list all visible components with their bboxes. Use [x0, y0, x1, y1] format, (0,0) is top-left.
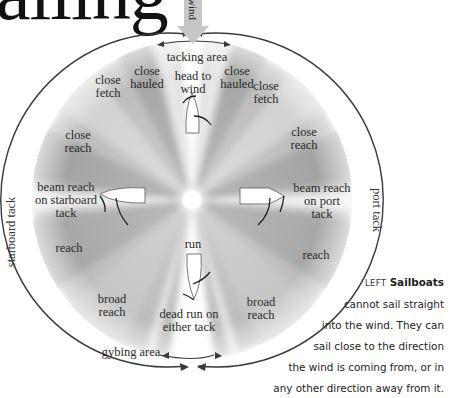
- wind-label: wind: [187, 0, 199, 21]
- point-dead-run: dead run oneither tack: [159, 307, 219, 334]
- point-close-fetch-right: closefetch: [253, 79, 279, 106]
- point-close-reach-right: closereach: [290, 125, 318, 152]
- caption-line-5: the wind is coming from, or in: [224, 357, 444, 378]
- caption-line-6: any other direction away from it.: [224, 378, 444, 398]
- caption-line-2: cannot sail straight: [224, 294, 444, 315]
- starboard-tack-label: starboard tack: [4, 196, 18, 267]
- caption-line-1: LEFT Sailboats: [224, 272, 444, 294]
- arrowhead-icon: [197, 363, 206, 371]
- caption-line-3: into the wind. They can: [224, 315, 444, 336]
- point-broad-reach-left: broadreach: [98, 292, 127, 319]
- tacking-area-label: tacking area: [167, 50, 228, 64]
- point-run: run: [185, 237, 202, 251]
- figure-caption: LEFT Sailboats cannot sail straight into…: [224, 272, 444, 398]
- wind-arrow-icon: wind: [177, 0, 209, 44]
- point-reach-right: reach: [302, 248, 330, 262]
- point-close-hauled-right: closehauled: [220, 64, 254, 91]
- caption-lead: LEFT: [365, 278, 386, 288]
- point-close-fetch-left: closefetch: [95, 73, 121, 100]
- port-tack-label: port tack: [370, 188, 384, 233]
- caption-line-4: sail close to the direction: [224, 336, 444, 357]
- point-reach-left: reach: [55, 241, 83, 255]
- point-close-hauled-left: closehauled: [130, 64, 164, 91]
- caption-line-1-text: Sailboats: [390, 276, 444, 288]
- arrowhead-icon: [180, 363, 189, 371]
- point-close-reach-left: closereach: [64, 128, 92, 155]
- gybing-area-label: gybing area: [102, 345, 161, 359]
